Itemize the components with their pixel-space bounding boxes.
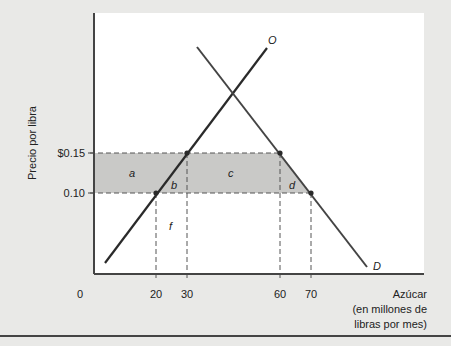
x-tick-label-20: 20 xyxy=(150,288,162,300)
point-30-015 xyxy=(184,150,189,155)
y-axis-title: Precio por libra xyxy=(26,105,38,180)
x-tick-label-70: 70 xyxy=(305,288,317,300)
region-a-label: a xyxy=(129,167,135,179)
shaded-area-abcd xyxy=(94,153,311,193)
point-20-010 xyxy=(153,190,158,195)
y-tick-label-015: $0.15 xyxy=(57,147,85,159)
y-tick-label-010: 0.10 xyxy=(64,187,85,199)
bottom-divider xyxy=(0,335,451,337)
x-tick-label-0: 0 xyxy=(77,288,83,300)
x-axis-title-line1: Azúcar xyxy=(393,288,428,300)
region-b-label: b xyxy=(171,179,177,191)
supply-demand-chart: O D a b c d f $0.15 0.10 0 20 30 60 70 P… xyxy=(0,0,451,346)
region-d-label: d xyxy=(289,179,296,191)
point-60-015 xyxy=(277,150,282,155)
point-70-010 xyxy=(308,190,313,195)
supply-label: O xyxy=(268,34,277,46)
plot-area xyxy=(94,13,424,274)
x-axis-title-line3: libras por mes) xyxy=(354,318,427,330)
x-axis-title-line2: (en millones de xyxy=(352,303,427,315)
region-c-label: c xyxy=(228,167,234,179)
x-tick-label-60: 60 xyxy=(274,288,286,300)
demand-label: D xyxy=(373,260,381,272)
x-tick-label-30: 30 xyxy=(181,288,193,300)
